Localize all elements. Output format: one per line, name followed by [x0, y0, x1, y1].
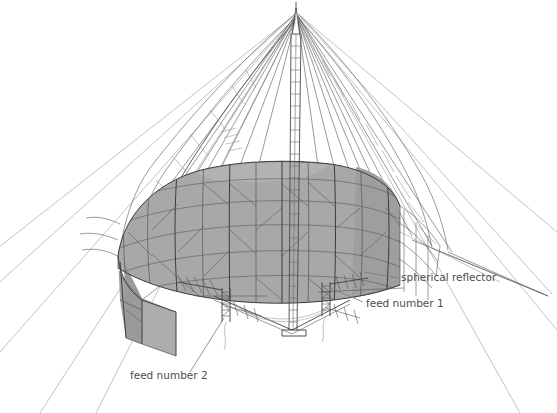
spherical-reflector-antenna-diagram: spherical reflector feed number 1 feed n…	[0, 0, 557, 413]
label-feed-number-2: feed number 2	[130, 369, 208, 381]
rim-cable-net-left	[80, 217, 120, 256]
spherical-reflector-surface	[118, 161, 400, 356]
label-feed-number-1: feed number 1	[366, 297, 444, 309]
rim-cable-net-right	[398, 206, 440, 300]
label-spherical-reflector: spherical reflector	[401, 271, 497, 283]
leader-line-feed-number-2	[190, 318, 224, 372]
figure-container: spherical reflector feed number 1 feed n…	[0, 0, 557, 413]
